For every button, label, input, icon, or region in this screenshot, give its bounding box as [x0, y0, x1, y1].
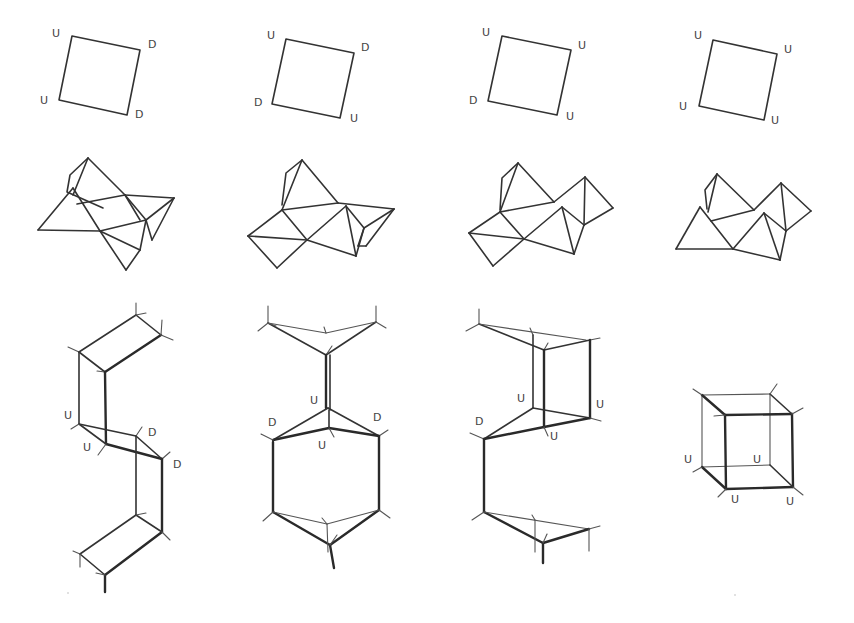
scan-speck [67, 592, 69, 594]
corner-label: U [52, 27, 60, 40]
polyhedron-panel-1 [38, 158, 174, 270]
corner-label: U [694, 29, 702, 42]
vertex-label: U [550, 430, 558, 443]
vertex-label: U [731, 493, 739, 506]
corner-label: U [267, 29, 275, 42]
corner-label: D [469, 94, 477, 107]
polyhedron-panel-3 [469, 163, 613, 266]
square-panel-3: U U D U [469, 26, 586, 123]
vertex-label: U [83, 441, 91, 454]
polyhedron-panel-4 [676, 174, 811, 260]
corner-label: U [771, 114, 779, 127]
square-shape [699, 40, 777, 120]
corner-label: U [350, 112, 358, 125]
vertex-label: D [475, 415, 483, 428]
corner-label: D [361, 41, 369, 54]
square-panel-1: U D U D [40, 27, 156, 121]
corner-label: U [40, 94, 48, 107]
vertex-label: U [318, 439, 326, 452]
corner-label: U [679, 100, 687, 113]
square-panel-2: U D D U [254, 29, 369, 125]
framework-panel-3: U D U U [466, 309, 604, 563]
corner-label: D [254, 96, 262, 109]
square-shape [59, 36, 140, 115]
scan-speck [734, 594, 736, 596]
corner-label: U [482, 26, 490, 39]
framework-panel-1: U U D D [64, 303, 181, 592]
square-panel-4: U U U U [679, 29, 792, 127]
vertex-label: D [268, 416, 276, 429]
vertex-label: U [64, 409, 72, 422]
vertex-label: D [148, 426, 156, 439]
corner-label: U [578, 39, 586, 52]
polyhedron-panel-2 [248, 160, 394, 268]
framework-panel-4: U U U U [684, 384, 803, 508]
corner-label: U [566, 110, 574, 123]
vertex-label: U [786, 495, 794, 508]
vertex-label: U [310, 394, 318, 407]
square-shape [488, 36, 571, 115]
corner-label: U [784, 43, 792, 56]
framework-panel-2: U D D U [258, 306, 390, 568]
vertex-label: U [596, 398, 604, 411]
vertex-label: D [373, 411, 381, 424]
vertex-label: U [753, 453, 761, 466]
square-shape [272, 39, 354, 118]
corner-label: D [148, 38, 156, 51]
vertex-label: U [684, 453, 692, 466]
corner-label: D [135, 108, 143, 121]
vertex-label: U [517, 392, 525, 405]
vertex-label: D [173, 458, 181, 471]
diagram-canvas: U D U D U D D U U U D U U U U U [0, 0, 854, 623]
